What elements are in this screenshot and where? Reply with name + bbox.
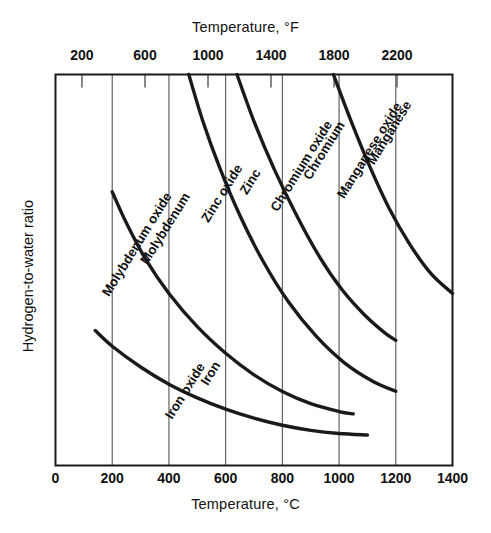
curve-labels: ManganeseManganese oxideChromiumChromium…	[99, 98, 415, 421]
curve-chromium	[237, 75, 396, 341]
curve-label-chromium-oxide: Chromium oxide	[267, 118, 335, 214]
gridlines	[112, 75, 396, 466]
curve-label-manganese-oxide: Manganese oxide	[334, 100, 405, 201]
curve-zinc	[189, 75, 396, 392]
plot-area: ManganeseManganese oxideChromiumChromium…	[0, 0, 491, 533]
chart-figure: Temperature, °F Temperature, °C Hydrogen…	[0, 0, 491, 533]
